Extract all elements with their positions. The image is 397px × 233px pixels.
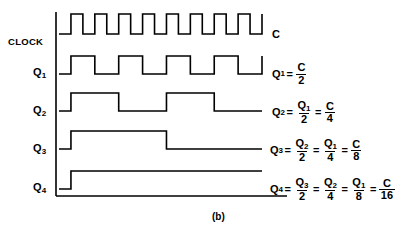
waveform-clock — [59, 14, 262, 34]
row-label-q4-sub: 4 — [42, 186, 47, 195]
timing-diagram-figure: CLOCK Q1 Q2 Q3 Q4 C Q1=C2 Q2=Q12=C4 Q3=Q… — [0, 0, 397, 233]
row-label-q1-sub: 1 — [42, 71, 47, 80]
q1-equation: Q1=C2 — [272, 62, 308, 86]
q4-equation: Q4=Q32=Q24=Q18=C16 — [270, 177, 396, 203]
row-label-q3-sub: 3 — [42, 147, 47, 156]
row-label-q4-base: Q — [33, 181, 42, 193]
row-label-q1-base: Q — [33, 66, 42, 78]
waveform-q1 — [59, 56, 262, 74]
waveform-q4 — [59, 171, 262, 189]
row-label-q2: Q2 — [33, 104, 47, 118]
figure-caption: (b) — [212, 211, 225, 222]
waveform-q2 — [59, 93, 262, 111]
row-label-q3-base: Q — [33, 142, 42, 154]
row-label-q3: Q3 — [33, 142, 47, 156]
row-label-q4: Q4 — [33, 181, 47, 195]
row-label-q2-base: Q — [33, 104, 42, 116]
row-label-q2-sub: 2 — [42, 109, 47, 118]
clock-equation: C — [272, 29, 280, 40]
q3-equation: Q3=Q22=Q14=C8 — [270, 138, 363, 164]
row-label-q1: Q1 — [33, 66, 47, 80]
row-label-clock: CLOCK — [8, 36, 43, 47]
waveform-q3 — [59, 131, 262, 149]
q2-equation: Q2=Q12=C4 — [272, 100, 337, 126]
